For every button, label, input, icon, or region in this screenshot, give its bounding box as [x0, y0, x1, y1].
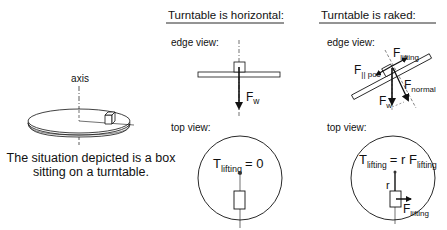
box-icon: [105, 112, 115, 124]
parallel-force-label: F|| poc: [354, 63, 381, 79]
axis-label: axis: [71, 73, 89, 84]
top-view-label: top view:: [327, 122, 366, 133]
horizontal-heading: Turntable is horizontal:: [168, 9, 284, 21]
center-pivot: [238, 171, 242, 175]
caption-line-2: sitting on a turntable.: [0, 165, 182, 179]
box: [234, 191, 245, 209]
raked-heading: Turntable is raked:: [321, 9, 416, 21]
edge-view-label: edge view:: [171, 37, 219, 48]
lifting-force-label: Flifting: [393, 46, 419, 62]
normal-force-label: Fnormal: [404, 78, 436, 94]
raked-panel: Turntable is raked: edge view: Flifting …: [319, 9, 437, 224]
turntable-perspective: axis: [28, 73, 134, 147]
top-view-label: top view:: [171, 122, 210, 133]
edge-view-label: edge view:: [327, 37, 375, 48]
diagram-canvas: axis Turntable is horizontal: edge view:…: [0, 0, 447, 230]
torque-equation: Tlifting= 0: [213, 156, 263, 174]
torque-equation: Tlifting= r Flifting: [359, 152, 437, 170]
situation-caption: The situation depicted is a box sitting …: [0, 151, 182, 179]
weight-force-label: Fw: [246, 90, 260, 106]
weight-force-label: Fw: [379, 94, 392, 110]
horizontal-panel: Turntable is horizontal: edge view: Fw t…: [166, 9, 284, 228]
radius-label: r: [386, 179, 390, 191]
caption-line-1: The situation depicted is a box: [0, 151, 182, 165]
